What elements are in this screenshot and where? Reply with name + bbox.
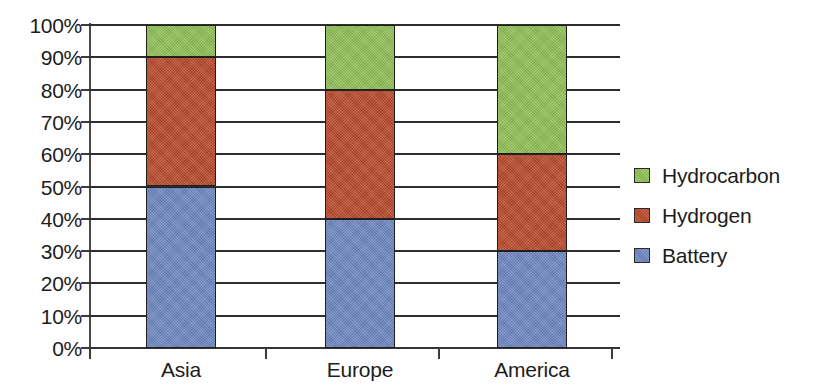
y-tick-label: 80% [0, 79, 82, 100]
bar-segment-america-battery[interactable] [497, 251, 567, 348]
legend-swatch-hydrogen [634, 208, 650, 223]
bar-america[interactable] [497, 25, 567, 348]
x-tick-mark [265, 348, 267, 359]
y-tick-label: 100% [0, 15, 82, 36]
x-tick-mark [89, 348, 91, 359]
legend-swatch-hydrocarbon [634, 168, 650, 183]
bar-asia[interactable] [146, 25, 216, 348]
y-tick-label: 40% [0, 208, 82, 229]
bar-segment-europe-hydrocarbon[interactable] [325, 25, 395, 90]
bar-segment-asia-hydrogen[interactable] [146, 57, 216, 186]
x-tick-mark [611, 348, 613, 359]
stacked-bar-chart: 0%10%20%30%40%50%60%70%80%90%100% AsiaEu… [0, 0, 815, 391]
legend-swatch-battery [634, 248, 650, 263]
legend-item-hydrocarbon[interactable]: Hydrocarbon [634, 155, 815, 195]
legend-label: Hydrocarbon [662, 165, 780, 186]
x-category-label-europe: Europe [327, 359, 394, 380]
bar-segment-asia-battery[interactable] [146, 187, 216, 349]
bar-segment-asia-hydrocarbon[interactable] [146, 25, 216, 57]
legend-label: Battery [662, 245, 727, 266]
y-axis-labels: 0%10%20%30%40%50%60%70%80%90%100% [0, 0, 82, 391]
bar-segment-america-hydrocarbon[interactable] [497, 25, 567, 154]
x-tick-mark [438, 348, 440, 359]
y-tick-label: 90% [0, 47, 82, 68]
y-tick-label: 30% [0, 241, 82, 262]
y-tick-label: 50% [0, 176, 82, 197]
y-tick-label: 20% [0, 273, 82, 294]
x-category-label-asia: Asia [161, 359, 201, 380]
bar-segment-europe-hydrogen[interactable] [325, 90, 395, 219]
bar-segment-america-hydrogen[interactable] [497, 154, 567, 251]
bar-europe[interactable] [325, 25, 395, 348]
y-tick-label: 70% [0, 111, 82, 132]
bar-segment-europe-battery[interactable] [325, 219, 395, 348]
chart-legend: HydrocarbonHydrogenBattery [634, 155, 815, 275]
legend-item-battery[interactable]: Battery [634, 235, 815, 275]
legend-label: Hydrogen [662, 205, 751, 226]
x-category-label-america: America [494, 359, 570, 380]
y-tick-label: 60% [0, 144, 82, 165]
y-tick-label: 0% [0, 338, 82, 359]
legend-item-hydrogen[interactable]: Hydrogen [634, 195, 815, 235]
y-tick-label: 10% [0, 305, 82, 326]
plot-area [89, 25, 620, 348]
